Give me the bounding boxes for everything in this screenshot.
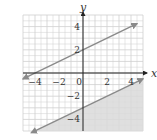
x-tick-label: −4 [28, 77, 42, 87]
x-axis-label: x [151, 67, 157, 80]
y-tick-label: −2 [67, 91, 80, 101]
y-tick-label: 4 [74, 22, 80, 32]
x-tick-label: −2 [52, 77, 65, 87]
x-tick-label: 2 [104, 77, 110, 87]
y-axis-label: y [79, 1, 87, 14]
inequality-graph: −4−202442−2−4 x y [0, 0, 157, 140]
x-tick-label: 0 [76, 77, 82, 87]
y-tick-label: −4 [67, 114, 81, 124]
y-tick-label: 2 [74, 45, 80, 55]
x-tick-label: 4 [128, 77, 134, 87]
